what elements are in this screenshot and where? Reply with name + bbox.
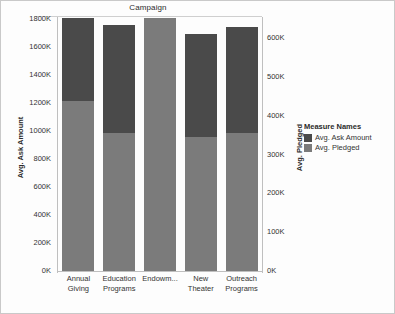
category-label-line: Theater (178, 284, 224, 294)
bar-4[interactable] (185, 34, 217, 271)
bar-segment-avg-pledged[interactable] (62, 101, 94, 271)
right-axis-tick: 100K (267, 228, 285, 236)
legend: Measure Names Avg. Ask AmountAvg. Pledge… (304, 122, 390, 154)
left-axis-ticks: 1800K1600K1400K1200K1000K800K600K400K200… (1, 19, 57, 271)
right-axis-ticks: 600K500K400K300K200K100K0K (263, 19, 303, 271)
legend-item-2[interactable]: Avg. Pledged (304, 144, 390, 152)
category-label-line: Giving (55, 284, 101, 294)
bar-3[interactable] (144, 18, 176, 271)
legend-title: Measure Names (304, 122, 390, 131)
left-axis-tick: 600K (33, 183, 51, 191)
right-axis-tick: 200K (267, 190, 285, 198)
left-axis-tick: 1800K (29, 15, 51, 23)
bar-segment-avg-pledged[interactable] (144, 18, 176, 271)
left-axis-tick: 800K (33, 155, 51, 163)
title-divider (34, 16, 262, 17)
bar-segment-avg-ask-amount[interactable] (103, 25, 135, 133)
category-label-line: Programs (219, 284, 265, 294)
right-axis-tick: 600K (267, 35, 285, 43)
category-label-4[interactable]: NewTheater (178, 274, 224, 294)
left-axis-tick: 1600K (29, 43, 51, 51)
chart-canvas: Campaign Avg. Ask Amount 1800K1600K1400K… (0, 0, 395, 314)
bar-segment-avg-pledged[interactable] (226, 133, 258, 271)
legend-label: Avg. Pledged (315, 144, 359, 152)
bar-segment-avg-ask-amount[interactable] (226, 27, 258, 133)
left-axis-tick: 1400K (29, 71, 51, 79)
bar-segment-avg-pledged[interactable] (103, 133, 135, 271)
bar-5[interactable] (226, 27, 258, 271)
category-axis: AnnualGivingEducationProgramsEndowm...Ne… (58, 274, 262, 304)
legend-entries: Avg. Ask AmountAvg. Pledged (304, 134, 390, 152)
category-label-5[interactable]: OutreachPrograms (219, 274, 265, 294)
category-label-2[interactable]: EducationPrograms (96, 274, 142, 294)
right-axis-tick: 0K (267, 267, 276, 275)
right-axis-tick: 400K (267, 112, 285, 120)
bottom-axis-line (57, 271, 263, 272)
bar-segment-avg-pledged[interactable] (185, 137, 217, 271)
category-label-1[interactable]: AnnualGiving (55, 274, 101, 294)
right-axis-tick: 500K (267, 73, 285, 81)
legend-swatch-icon (304, 144, 312, 152)
category-label-line: Outreach (219, 274, 265, 284)
legend-swatch-icon (304, 134, 312, 142)
bar-segment-avg-ask-amount[interactable] (62, 18, 94, 101)
bar-2[interactable] (103, 25, 135, 271)
bar-series-group (58, 19, 262, 271)
legend-item-1[interactable]: Avg. Ask Amount (304, 134, 390, 142)
category-label-line: Education (96, 274, 142, 284)
bar-segment-avg-ask-amount[interactable] (185, 34, 217, 137)
legend-label: Avg. Ask Amount (315, 134, 372, 142)
left-axis-tick: 400K (33, 211, 51, 219)
category-label-3[interactable]: Endowm... (137, 274, 183, 284)
column-title: Campaign (34, 3, 262, 12)
category-label-line: Annual (55, 274, 101, 284)
category-label-line: New (178, 274, 224, 284)
left-axis-tick: 0K (42, 267, 51, 275)
left-axis-tick: 1000K (29, 127, 51, 135)
left-axis-tick: 200K (33, 239, 51, 247)
category-label-line: Programs (96, 284, 142, 294)
category-label-line: Endowm... (137, 274, 183, 284)
left-axis-tick: 1200K (29, 99, 51, 107)
bar-1[interactable] (62, 18, 94, 271)
right-axis-tick: 300K (267, 151, 285, 159)
